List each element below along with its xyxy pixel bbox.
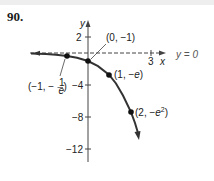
x-axis-label: x <box>159 56 166 67</box>
label-point-2: (2, −e2) <box>135 106 168 118</box>
label-point-0: (0, −1) <box>106 32 135 43</box>
svg-text:): ) <box>64 81 67 92</box>
x-tick-3: 3 <box>148 56 154 67</box>
point-1 <box>106 72 112 78</box>
curve <box>31 51 141 140</box>
y-tick-neg8: −8 <box>72 112 84 123</box>
y-tick-2: 2 <box>76 32 82 43</box>
label-point-1: (1, −e) <box>114 69 143 80</box>
y-tick-neg12: −12 <box>66 144 83 155</box>
point-2 <box>128 109 134 115</box>
svg-text:(−1, −: (−1, − <box>28 81 54 92</box>
y-axis-label: y <box>79 18 86 29</box>
point-neg1 <box>64 53 70 59</box>
asymptote-label: y = 0 <box>175 49 198 60</box>
label-point-neg1: (−1, − 1 e ) <box>28 77 67 96</box>
exponential-graph: y 2 −4 −8 −12 3 x y = 0 (0, −1) (1, −e) … <box>0 0 214 181</box>
y-axis: y 2 −4 −8 −12 <box>66 18 91 162</box>
y-tick-neg4: −4 <box>72 80 84 91</box>
point-0 <box>85 58 91 64</box>
